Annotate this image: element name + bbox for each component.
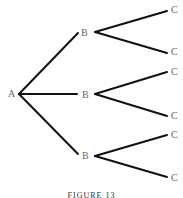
edge-b1-c2 (95, 32, 167, 53)
tree-edges (0, 0, 183, 198)
edge-b1-c1 (95, 11, 167, 32)
node-a: A (8, 89, 15, 99)
node-c1: C (171, 5, 178, 15)
edge-b2-c4 (95, 94, 167, 116)
node-c2: C (171, 47, 178, 57)
edge-b3-c5 (95, 135, 167, 156)
node-b3: B (82, 151, 89, 161)
node-c3: C (171, 67, 178, 77)
node-c5: C (171, 130, 178, 140)
figure-caption: FIGURE 13 (0, 191, 183, 198)
edge-a-b3 (19, 94, 78, 154)
node-b2: B (82, 90, 89, 100)
node-c6: C (171, 173, 178, 183)
edge-a-b1 (19, 33, 78, 94)
edge-b2-c3 (95, 72, 167, 94)
node-b1: B (81, 28, 88, 38)
edge-b3-c6 (95, 156, 167, 177)
node-c4: C (171, 111, 178, 121)
